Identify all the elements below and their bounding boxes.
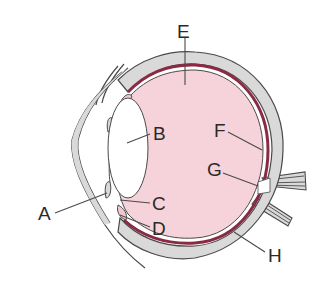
eye-diagram: A B C D E F G H: [0, 0, 330, 290]
label-h: H: [268, 245, 282, 266]
optic-disc: [258, 178, 270, 194]
label-e: E: [177, 21, 190, 42]
lens: [108, 98, 148, 198]
label-f: F: [214, 120, 226, 141]
iris-lower: [105, 182, 111, 198]
label-g: G: [207, 159, 222, 180]
label-b: B: [153, 123, 166, 144]
label-c: C: [152, 193, 166, 214]
label-d: D: [152, 218, 166, 239]
label-a: A: [38, 203, 51, 224]
